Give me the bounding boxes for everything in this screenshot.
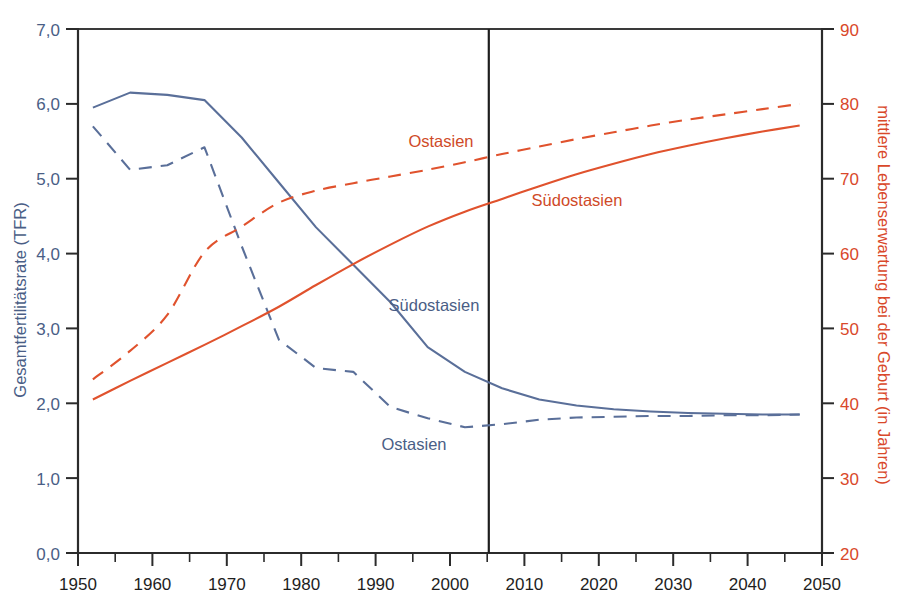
plot-frame	[78, 28, 822, 554]
right-tick-label-80: 80	[840, 95, 859, 114]
right-axis-ticks: 90 80 70 60 50 40 30 20	[822, 21, 859, 564]
right-tick-label-40: 40	[840, 395, 859, 414]
annotation-suedostasien-tfr: Südostasien	[389, 296, 480, 314]
series-line-ostasien-tfr	[93, 126, 800, 427]
x-tick-label-1960: 1960	[133, 575, 171, 594]
left-axis-title: Gesamtfertilitätsrate (TFR)	[11, 202, 29, 397]
annotation-suedostasien-life-expectancy: Südostasien	[532, 191, 623, 209]
x-tick-label-1950: 1950	[59, 575, 97, 594]
x-tick-label-2000: 2000	[431, 575, 469, 594]
left-tick-label-7: 7,0	[36, 21, 60, 40]
x-axis-tick-labels: 1950196019701980199020002010202020302040…	[59, 575, 841, 594]
chart-container: 7,0 6,0 5,0 4,0 3,0 2,0 1,0 0,0 90 80 70…	[0, 0, 898, 607]
x-axis-ticks	[78, 553, 822, 566]
left-tick-label-6: 6,0	[36, 95, 60, 114]
right-tick-label-70: 70	[840, 170, 859, 189]
annotation-ostasien-life-expectancy: Ostasien	[408, 132, 473, 150]
x-tick-label-2040: 2040	[729, 575, 767, 594]
right-tick-label-50: 50	[840, 320, 859, 339]
left-tick-label-3: 3,0	[36, 320, 60, 339]
right-tick-label-90: 90	[840, 21, 859, 40]
x-tick-label-2010: 2010	[505, 575, 543, 594]
x-tick-label-2020: 2020	[580, 575, 618, 594]
left-tick-label-0: 0,0	[36, 545, 60, 564]
x-tick-label-2030: 2030	[654, 575, 692, 594]
x-tick-label-1980: 1980	[282, 575, 320, 594]
chart-svg: 7,0 6,0 5,0 4,0 3,0 2,0 1,0 0,0 90 80 70…	[0, 0, 898, 607]
x-tick-label-1990: 1990	[357, 575, 395, 594]
left-tick-label-5: 5,0	[36, 170, 60, 189]
right-tick-label-30: 30	[840, 470, 859, 489]
annotation-ostasien-tfr: Ostasien	[381, 435, 446, 453]
left-tick-label-2: 2,0	[36, 395, 60, 414]
right-tick-label-60: 60	[840, 245, 859, 264]
right-axis-title: mittlere Lebenserwartung bei der Geburt …	[875, 105, 893, 485]
left-tick-label-4: 4,0	[36, 245, 60, 264]
x-tick-label-2050: 2050	[803, 575, 841, 594]
x-tick-label-1970: 1970	[208, 575, 246, 594]
right-tick-label-20: 20	[840, 545, 859, 564]
left-axis-ticks: 7,0 6,0 5,0 4,0 3,0 2,0 1,0 0,0	[36, 21, 78, 564]
left-tick-label-1: 1,0	[36, 470, 60, 489]
